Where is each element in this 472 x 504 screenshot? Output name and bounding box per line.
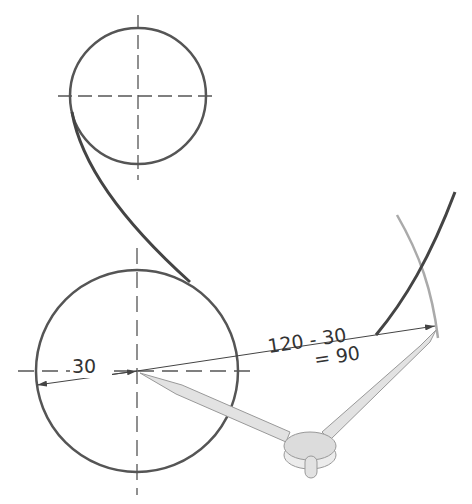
radius-label: 30 [72, 355, 96, 377]
tangent-arc [72, 112, 190, 282]
bottom-circle [18, 248, 258, 495]
compass-construction-drawing: 30 120 - 30 = 90 [0, 0, 472, 504]
top-circle [58, 15, 218, 180]
result-arc [376, 192, 455, 335]
